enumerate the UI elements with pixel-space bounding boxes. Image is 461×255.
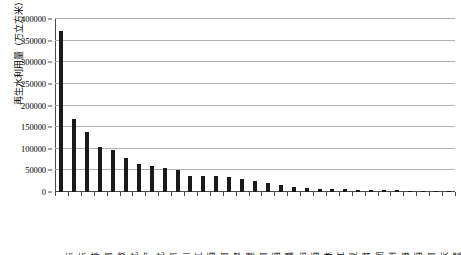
bar <box>214 176 218 192</box>
bar-slot <box>107 19 120 192</box>
x-axis-tick-labels: 广东山东江苏河南安徽河北辽宁湖北北京四川浙江陕西云南天津福建湖南广西新疆内蒙古山… <box>55 196 455 254</box>
y-tick-label: 300000 <box>21 57 46 67</box>
x-tick-mark <box>455 192 456 196</box>
bar <box>150 166 154 192</box>
bar-slot <box>94 19 107 192</box>
y-tick-mark <box>48 148 52 149</box>
bar-slot <box>378 19 391 192</box>
bar-series <box>55 19 455 192</box>
y-tick-mark <box>48 19 52 20</box>
y-tick-mark <box>48 192 52 193</box>
bar-slot <box>287 19 300 192</box>
y-tick-label: 100000 <box>21 144 46 154</box>
y-tick-mark <box>48 127 52 128</box>
bar-slot <box>68 19 81 192</box>
bar <box>137 164 141 192</box>
bar <box>98 147 102 192</box>
bar-slot <box>352 19 365 192</box>
y-tick-label: 350000 <box>21 36 46 46</box>
bar-slot <box>158 19 171 192</box>
bar-slot <box>171 19 184 192</box>
y-tick-mark <box>48 83 52 84</box>
bar-slot <box>429 19 442 192</box>
bar-slot <box>197 19 210 192</box>
bar-slot <box>55 19 68 192</box>
bar-slot <box>300 19 313 192</box>
bar <box>201 176 205 192</box>
bar <box>279 185 283 192</box>
bar-slot <box>81 19 94 192</box>
y-axis-tick-labels: 4000003500003000002500002000001500001000… <box>0 19 52 192</box>
bar <box>188 176 192 192</box>
bar <box>163 168 167 192</box>
bar-slot <box>210 19 223 192</box>
bar-slot <box>132 19 145 192</box>
y-tick-mark <box>48 105 52 106</box>
bar-slot <box>313 19 326 192</box>
plot-area <box>55 19 455 192</box>
y-tick-mark <box>48 40 52 41</box>
bar-slot <box>261 19 274 192</box>
bar-slot <box>274 19 287 192</box>
bar <box>240 179 244 192</box>
y-tick-label: 50000 <box>25 165 46 175</box>
y-tick-label: 250000 <box>21 79 46 89</box>
bar <box>176 170 180 192</box>
y-tick-label: 200000 <box>21 101 46 111</box>
bar-slot <box>249 19 262 192</box>
bar-slot <box>326 19 339 192</box>
bar-slot <box>390 19 403 192</box>
y-tick-label: 0 <box>42 187 46 197</box>
bar-slot <box>365 19 378 192</box>
bar <box>59 31 63 192</box>
bar <box>85 132 89 192</box>
y-tick-mark <box>48 170 52 171</box>
y-tick-label: 400000 <box>21 14 46 24</box>
bar-slot <box>403 19 416 192</box>
bar-slot <box>184 19 197 192</box>
bar-slot <box>120 19 133 192</box>
bar-slot <box>145 19 158 192</box>
bar-slot <box>223 19 236 192</box>
bar-slot <box>339 19 352 192</box>
bar <box>111 150 115 192</box>
chart-screenshot: 再生水利用量（万立方米） 400000350000300000250000200… <box>0 0 461 255</box>
bar <box>266 183 270 192</box>
bar-slot <box>236 19 249 192</box>
bar-slot <box>442 19 455 192</box>
bar <box>253 181 257 192</box>
bar <box>124 158 128 192</box>
bar <box>227 177 231 192</box>
bar <box>72 119 76 192</box>
y-tick-label: 150000 <box>21 122 46 132</box>
bar-slot <box>416 19 429 192</box>
y-tick-mark <box>48 62 52 63</box>
